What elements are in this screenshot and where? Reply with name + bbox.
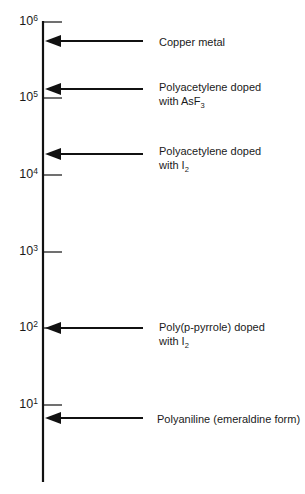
- tick-label: 102: [8, 320, 38, 334]
- tick-label: 106: [8, 14, 38, 28]
- arrow-marker: [45, 35, 143, 47]
- tick-label: 101: [8, 397, 38, 411]
- arrow-marker: [45, 322, 143, 334]
- arrow-marker: [45, 148, 143, 160]
- tick-label: 105: [8, 90, 38, 104]
- arrowhead-icon: [45, 83, 61, 95]
- arrow-marker: [45, 412, 143, 424]
- arrowhead-icon: [45, 412, 61, 424]
- marker-label: Polyacetylene dopedwith I2: [159, 144, 261, 174]
- arrowhead-icon: [45, 322, 61, 334]
- marker-label: Poly(p-pyrrole) dopedwith I2: [159, 320, 265, 350]
- marker-label: Polyaniline (emeraldine form): [157, 412, 300, 426]
- tick-label: 103: [8, 244, 38, 258]
- arrowhead-icon: [45, 35, 61, 47]
- marker-label: Polyacetylene dopedwith AsF3: [159, 80, 261, 110]
- arrow-marker: [45, 83, 143, 95]
- marker-label: Copper metal: [159, 35, 225, 49]
- tick-label: 104: [8, 167, 38, 181]
- arrowhead-icon: [45, 148, 61, 160]
